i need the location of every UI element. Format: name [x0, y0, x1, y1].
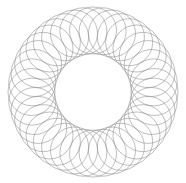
spirograph-rosette: Annular spirograph rosette formed by man… [0, 0, 186, 183]
figure-canvas: Annular spirograph rosette formed by man… [0, 0, 186, 183]
figure-background [0, 0, 186, 183]
